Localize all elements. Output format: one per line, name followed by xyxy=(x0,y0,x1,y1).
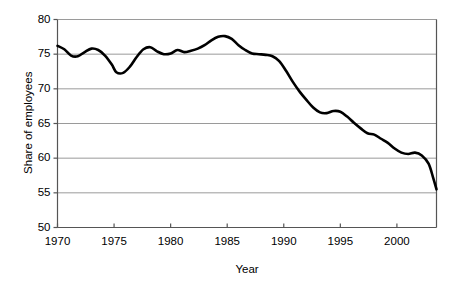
chart-figure: 50556065707580 1970197519801985199019952… xyxy=(0,0,456,292)
y-tick-label: 55 xyxy=(38,187,51,199)
x-tick-label: 1995 xyxy=(328,236,354,248)
x-tick-label: 1975 xyxy=(101,236,127,248)
x-axis-title: Year xyxy=(235,264,258,276)
gridlines xyxy=(58,20,437,193)
chart-plot-area xyxy=(0,0,456,292)
y-tick-label: 75 xyxy=(38,48,51,60)
y-tick-label: 50 xyxy=(38,222,51,234)
x-tick-label: 1980 xyxy=(158,236,184,248)
x-tick-label: 2000 xyxy=(384,236,410,248)
x-tick-label: 1990 xyxy=(271,236,297,248)
x-tick-label: 1970 xyxy=(45,236,71,248)
y-tick-label: 60 xyxy=(38,152,51,164)
data-line-share-of-employees xyxy=(58,36,437,189)
x-tick-label: 1985 xyxy=(214,236,240,248)
y-tick-label: 80 xyxy=(38,14,51,26)
y-axis-title: Share of employees xyxy=(23,69,35,175)
y-tick-label: 70 xyxy=(38,83,51,95)
y-tick-label: 65 xyxy=(38,118,51,130)
